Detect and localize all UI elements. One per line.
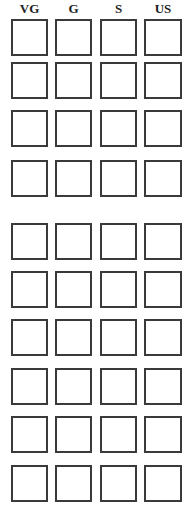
checkbox-us-row-4[interactable] xyxy=(144,160,182,197)
checkbox-s-row-3[interactable] xyxy=(100,110,137,147)
column-header-s: S xyxy=(100,1,137,17)
checkbox-s-row-5[interactable] xyxy=(100,223,137,260)
checkbox-vg-row-3[interactable] xyxy=(11,110,48,147)
checkbox-g-row-1[interactable] xyxy=(55,19,92,56)
checkbox-us-row-9[interactable] xyxy=(144,416,182,453)
checkbox-s-row-10[interactable] xyxy=(100,465,137,502)
checkbox-us-row-6[interactable] xyxy=(144,271,182,308)
checkbox-g-row-9[interactable] xyxy=(55,416,92,453)
checkbox-us-row-8[interactable] xyxy=(144,368,182,405)
checkbox-vg-row-1[interactable] xyxy=(11,19,48,56)
checkbox-s-row-9[interactable] xyxy=(100,416,137,453)
checkbox-us-row-2[interactable] xyxy=(144,62,182,99)
checkbox-us-row-7[interactable] xyxy=(144,319,182,356)
checkbox-vg-row-5[interactable] xyxy=(11,223,48,260)
checkbox-us-row-10[interactable] xyxy=(144,465,182,502)
checkbox-s-row-6[interactable] xyxy=(100,271,137,308)
checkbox-g-row-7[interactable] xyxy=(55,319,92,356)
column-header-us: US xyxy=(144,1,182,17)
checkbox-vg-row-6[interactable] xyxy=(11,271,48,308)
column-header-g: G xyxy=(55,1,92,17)
checkbox-vg-row-10[interactable] xyxy=(11,465,48,502)
checkbox-g-row-5[interactable] xyxy=(55,223,92,260)
column-header-vg: VG xyxy=(11,1,48,17)
checkbox-vg-row-9[interactable] xyxy=(11,416,48,453)
checkbox-s-row-4[interactable] xyxy=(100,160,137,197)
checkbox-g-row-10[interactable] xyxy=(55,465,92,502)
checkbox-g-row-6[interactable] xyxy=(55,271,92,308)
checkbox-g-row-3[interactable] xyxy=(55,110,92,147)
checkbox-vg-row-2[interactable] xyxy=(11,62,48,99)
checkbox-g-row-8[interactable] xyxy=(55,368,92,405)
checkbox-us-row-1[interactable] xyxy=(144,19,182,56)
checkbox-s-row-8[interactable] xyxy=(100,368,137,405)
checkbox-s-row-2[interactable] xyxy=(100,62,137,99)
checkbox-s-row-1[interactable] xyxy=(100,19,137,56)
checkbox-us-row-5[interactable] xyxy=(144,223,182,260)
checkbox-s-row-7[interactable] xyxy=(100,319,137,356)
checkbox-g-row-4[interactable] xyxy=(55,160,92,197)
checkbox-vg-row-4[interactable] xyxy=(11,160,48,197)
checkbox-vg-row-8[interactable] xyxy=(11,368,48,405)
checkbox-g-row-2[interactable] xyxy=(55,62,92,99)
checkbox-us-row-3[interactable] xyxy=(144,110,182,147)
checkbox-vg-row-7[interactable] xyxy=(11,319,48,356)
